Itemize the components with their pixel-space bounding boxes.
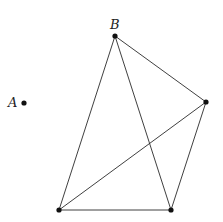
label-a: A xyxy=(7,95,17,110)
edge-b-e xyxy=(115,36,171,210)
edge-c-d xyxy=(59,102,206,210)
edge-c-e xyxy=(171,102,206,210)
points-group xyxy=(21,33,208,212)
geometry-diagram: A B xyxy=(0,0,223,222)
edge-b-d xyxy=(59,36,115,210)
edges-group xyxy=(59,36,206,210)
point-a xyxy=(21,100,26,105)
point-e xyxy=(168,207,173,212)
label-b: B xyxy=(109,17,120,32)
point-c xyxy=(203,99,208,104)
point-d xyxy=(56,207,61,212)
edge-b-c xyxy=(115,36,206,102)
point-b xyxy=(112,33,117,38)
